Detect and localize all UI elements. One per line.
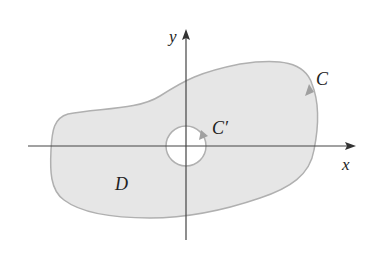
inner-curve-label: C′ bbox=[212, 118, 229, 138]
green-theorem-diagram: y x C C′ D bbox=[0, 0, 378, 262]
outer-curve-label: C bbox=[316, 69, 329, 89]
x-axis-label: x bbox=[341, 155, 350, 174]
region-label: D bbox=[114, 174, 128, 194]
y-axis-label: y bbox=[167, 27, 177, 46]
